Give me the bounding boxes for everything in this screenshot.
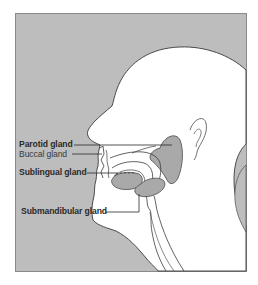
salivary-gland-diagram: Parotid gland Buccal gland Sublingual gl… bbox=[0, 0, 258, 285]
label-submandibular-gland: Submandibular gland bbox=[21, 206, 107, 216]
label-buccal-gland: Buccal gland bbox=[19, 149, 67, 159]
label-sublingual-gland: Sublingual gland bbox=[19, 167, 87, 177]
label-parotid-gland: Parotid gland bbox=[19, 139, 73, 149]
